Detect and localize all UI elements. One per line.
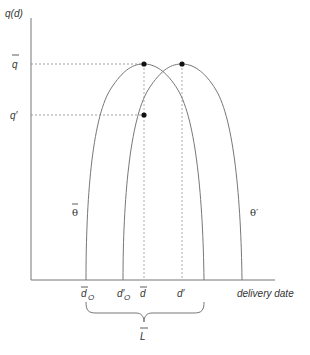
svg-text:q′: q′ — [10, 110, 19, 121]
svg-text:d: d — [81, 288, 87, 299]
curve-theta-prime — [123, 64, 242, 280]
svg-text:θ′: θ′ — [250, 207, 259, 218]
x-tick-d-prime-o: d′ O — [117, 288, 130, 302]
svg-text:q: q — [12, 59, 18, 70]
svg-text:θ: θ — [72, 207, 78, 218]
x-tick-d-bar: d — [140, 287, 147, 299]
y-axis-label: q(d) — [5, 8, 23, 19]
label-theta-prime: θ′ — [250, 207, 259, 218]
x-tick-d-bar-o: d O — [81, 287, 94, 302]
q-prime-point — [141, 112, 146, 117]
label-L-bar: L — [140, 328, 148, 342]
y-tick-q-bar: q — [12, 55, 19, 70]
x-tick-d-prime: d′ — [177, 288, 186, 299]
svg-text:d: d — [140, 288, 146, 299]
svg-text:O: O — [124, 293, 130, 302]
svg-text:L: L — [140, 331, 146, 342]
x-axis-label: delivery date — [237, 288, 294, 299]
diagram-canvas: q(d) q q′ θ θ′ d O d′ O d d′ delive — [0, 0, 310, 355]
y-tick-q-prime: q′ — [10, 110, 19, 121]
svg-text:d′: d′ — [177, 288, 186, 299]
peak-theta-prime-point — [179, 61, 184, 66]
brace-L — [86, 302, 204, 322]
svg-text:O: O — [88, 293, 94, 302]
label-theta-bar: θ — [72, 204, 78, 218]
peak-theta-bar-point — [141, 61, 146, 66]
